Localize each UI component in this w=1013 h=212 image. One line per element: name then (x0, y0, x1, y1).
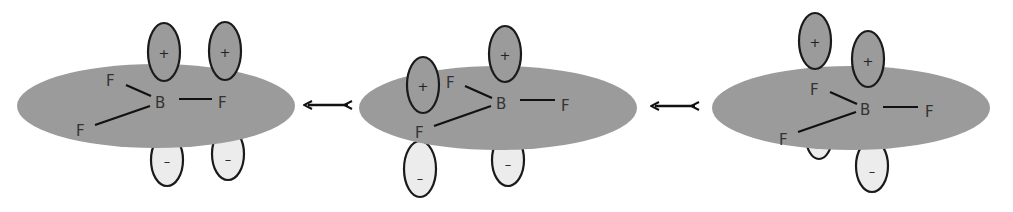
negative-sign: – (505, 157, 512, 172)
fluorine-atom: F (415, 124, 424, 142)
fluorine-atom: F (925, 103, 934, 121)
fluorine-atom: F (218, 94, 227, 112)
molecular-plane (712, 66, 990, 150)
fluorine-atom: F (446, 74, 455, 92)
negative-sign: – (225, 152, 232, 167)
negative-sign: – (417, 171, 424, 186)
positive-sign: + (220, 45, 231, 60)
negative-sign: – (869, 164, 876, 179)
fluorine-atom: F (810, 81, 819, 99)
boron-atom: B (496, 95, 506, 113)
boron-atom: B (860, 101, 870, 119)
negative-sign: – (164, 154, 171, 169)
fluorine-atom: F (779, 131, 788, 149)
positive-sign: + (500, 48, 511, 63)
fluorine-atom: F (76, 122, 85, 140)
fluorine-atom: F (561, 97, 570, 115)
negative-lobe (404, 141, 436, 197)
structure-3: – + + B F F F (712, 13, 990, 192)
structure-1: – – + + B F F F (17, 22, 295, 186)
boron-atom: B (155, 94, 165, 112)
positive-sign: + (810, 35, 821, 50)
structure-2: – – + + B F F F (359, 26, 637, 197)
positive-sign: + (418, 79, 429, 94)
positive-sign: + (863, 54, 874, 69)
bf3-resonance-diagram: – – + + B F F F – – + + B F F F (0, 0, 1013, 212)
fluorine-atom: F (106, 72, 115, 90)
positive-sign: + (159, 46, 170, 61)
